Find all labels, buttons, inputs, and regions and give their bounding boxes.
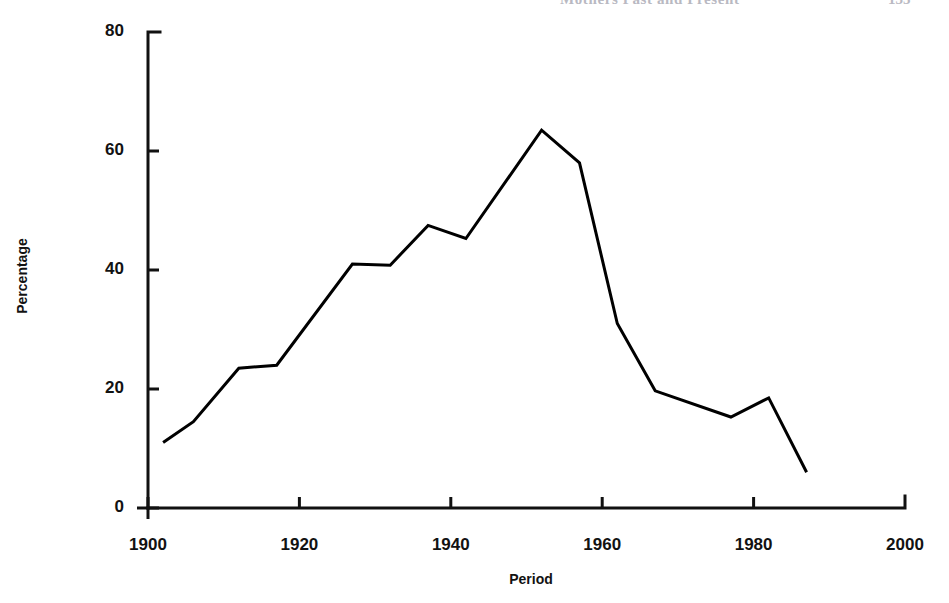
x-axis-tick-label: 1920 (259, 535, 339, 555)
chart-axes (137, 32, 905, 519)
y-axis-tick-label: 60 (64, 140, 124, 160)
chart-series-group (163, 130, 807, 472)
chart-canvas (0, 0, 949, 603)
x-axis-tick-label: 1960 (562, 535, 642, 555)
line-chart-figure: 020406080 190019201940196019802000 Perce… (0, 0, 949, 603)
y-axis-tick-label: 40 (64, 259, 124, 279)
x-axis-tick-label: 1900 (108, 535, 188, 555)
x-axis-tick-label: 2000 (865, 535, 945, 555)
data-line-percentage (163, 130, 807, 472)
x-axis-spine (148, 496, 905, 508)
x-axis-tick-label: 1980 (714, 535, 794, 555)
y-axis-tick-label: 20 (64, 378, 124, 398)
x-axis-title: Period (486, 571, 576, 587)
y-axis-title: Percentage (14, 216, 30, 336)
y-axis-tick-label: 0 (64, 497, 124, 517)
x-axis-tick-label: 1940 (411, 535, 491, 555)
y-axis-tick-label: 80 (64, 21, 124, 41)
